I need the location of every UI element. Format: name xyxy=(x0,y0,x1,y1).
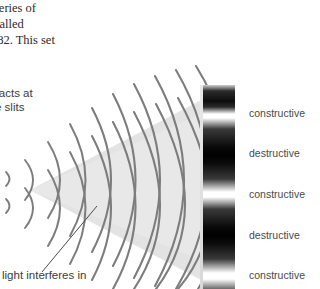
figure-canvas: series of called .82. This set racts at … xyxy=(0,0,320,289)
slit-caption-line-1: racts at xyxy=(0,86,33,100)
fringe-label-destructive-1: destructive xyxy=(249,147,300,159)
wave-arc-source-a xyxy=(6,172,10,186)
top-paragraph: series of called .82. This set xyxy=(0,0,55,48)
fringe-label-constructive-1: constructive xyxy=(249,107,305,119)
top-paragraph-line-3: .82. This set xyxy=(0,32,55,48)
wave-arc xyxy=(25,188,33,228)
fringe-label-constructive-3: constructive xyxy=(249,269,305,281)
top-paragraph-line-1: series of xyxy=(0,0,55,16)
wave-arc-source-b xyxy=(6,199,10,213)
interference-caption: light interferes in xyxy=(2,268,86,282)
fringe-label-constructive-2: constructive xyxy=(249,188,305,200)
interference-fringe-strip xyxy=(203,85,235,289)
slit-caption: racts at e slits xyxy=(0,86,33,114)
top-paragraph-line-2: called xyxy=(0,16,55,32)
fringe-label-destructive-2: destructive xyxy=(249,229,300,241)
slit-caption-line-2: e slits xyxy=(0,100,33,114)
